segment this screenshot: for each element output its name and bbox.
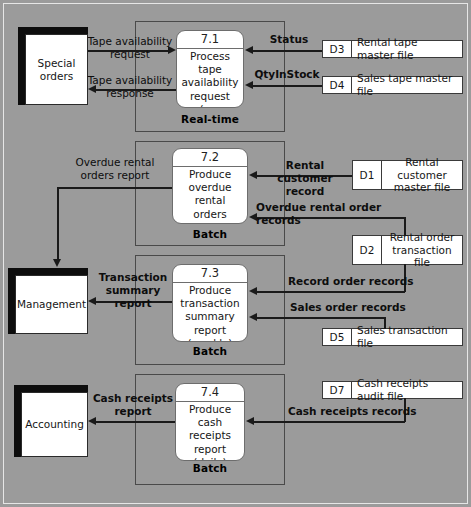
process-line: overdue rental [176,181,244,207]
store-d4[interactable]: D4 Sales tape master file [322,76,463,94]
process-line: transaction [180,297,239,310]
flow-label-tape-availability-response: Tape availability response [82,74,178,100]
group-batch-3-label: Batch [135,345,285,357]
process-line: summary report [176,310,244,336]
store-d5-code: D5 [323,329,352,345]
process-7-2[interactable]: 7.2 Produce overdue rental orders report… [172,148,248,224]
flow-label-status: Status [258,33,320,46]
process-line: cash receipts [179,416,241,442]
process-7-1-body: Process tape availability request (on-de… [177,49,243,108]
entity-shadow-top [21,385,88,392]
flow-line-cash-receipts-report [96,421,175,423]
entity-shadow-top [25,27,88,34]
store-d5[interactable]: D5 Sales transaction file [322,328,463,346]
store-d7-name: Cash receipts audit file [352,382,462,398]
flow-arrow-cash-receipts-records [246,417,254,425]
entity-shadow-left [14,385,21,457]
process-7-1-number: 7.1 [177,31,243,49]
store-d1-name: Rental customer master file [382,161,462,189]
process-line: Produce [189,168,231,181]
flow-arrow-sales-order-records [249,313,257,321]
flow-arrow-status [245,46,253,54]
entity-management[interactable]: Management [8,268,88,334]
flow-line-sales-order-records-v [384,317,386,329]
process-line: Produce [189,403,231,416]
flow-label-tape-availability-request: Tape availability request [82,35,178,61]
process-7-4-body: Produce cash receipts report (daily) [176,402,244,461]
process-line: Process tape [180,50,240,76]
flow-label-record-order-records: Record order records [288,275,418,288]
flow-line-cash-receipts-records-h [254,421,405,423]
store-d4-code: D4 [323,77,352,93]
dfd-diagram-canvas: Real-time Batch Batch Batch Special orde… [0,0,471,507]
flow-arrow-rental-customer-record [249,171,257,179]
store-d5-name: Sales transaction file [352,329,462,345]
process-7-3-number: 7.3 [173,265,247,283]
group-batch-4-label: Batch [135,462,285,474]
process-7-1[interactable]: 7.1 Process tape availability request (o… [176,30,244,108]
flow-label-overdue-rental-orders-report: Overdue rental orders report [60,156,170,182]
process-line: (on-demand) [180,103,240,108]
store-d7[interactable]: D7 Cash receipts audit file [322,381,463,399]
process-7-3[interactable]: 7.3 Produce transaction summary report (… [172,264,248,342]
flow-label-sales-order-records: Sales order records [290,301,416,314]
process-7-2-number: 7.2 [173,149,247,167]
entity-management-label: Management [15,275,88,334]
process-7-2-body: Produce overdue rental orders report (on… [173,167,247,224]
group-batch-2-label: Batch [135,228,285,240]
group-realtime-label: Real-time [135,113,285,125]
store-d2[interactable]: D2 Rental order transaction file [352,235,463,265]
entity-shadow-left [18,27,25,105]
flow-line-record-order-records-h [257,291,405,293]
store-d3-code: D3 [323,41,352,57]
flow-label-cash-receipts-report: Cash receipts report [90,392,176,418]
process-line: (daily) [193,456,226,461]
flow-label-overdue-rental-order-records: Overdue rental order records [256,201,426,227]
entity-accounting-label: Accounting [21,392,88,457]
entity-special-orders-label: Special orders [25,34,88,105]
store-d2-name: Rental order transaction file [382,236,462,264]
entity-shadow-left [8,268,15,334]
store-d1-code: D1 [353,161,382,189]
flow-arrow-qtyinstock [245,81,253,89]
flow-arrow-record-order-records [249,287,257,295]
flow-label-qtyinstock: QtyInStock [252,68,322,81]
process-7-3-body: Produce transaction summary report (week… [173,283,247,342]
store-d4-name: Sales tape master file [352,77,462,93]
store-d7-code: D7 [323,382,352,398]
flow-line-overdue-report-v [57,187,59,261]
process-7-4-number: 7.4 [176,384,244,402]
flow-line-sales-order-records-h [257,317,385,319]
process-line: Produce [189,284,231,297]
process-line: orders report [176,208,244,224]
flow-label-transaction-summary-report: Transaction summary report [87,271,179,310]
entity-special-orders[interactable]: Special orders [18,27,88,105]
flow-arrow-cash-receipts-report [88,417,96,425]
flow-line-status [253,50,322,52]
flow-arrow-overdue-report [53,259,61,267]
entity-shadow-top [15,268,88,275]
flow-label-cash-receipts-records: Cash receipts records [288,405,424,418]
store-d2-code: D2 [353,236,382,264]
process-line: report [194,443,226,456]
process-line: availability [181,76,238,89]
flow-line-overdue-report-h [57,187,172,189]
store-d1[interactable]: D1 Rental customer master file [352,160,463,190]
process-7-4[interactable]: 7.4 Produce cash receipts report (daily) [175,383,245,461]
process-line: request [190,90,230,103]
process-line: (weekly) [188,337,233,342]
flow-line-qtyinstock [253,85,322,87]
entity-accounting[interactable]: Accounting [14,385,88,457]
flow-label-rental-customer-record: Rental customer record [258,159,352,198]
store-d3-name: Rental tape master file [352,41,462,57]
store-d3[interactable]: D3 Rental tape master file [322,40,463,58]
